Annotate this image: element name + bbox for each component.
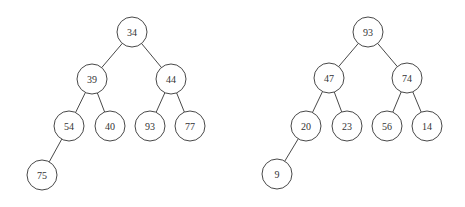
right-tree-edge (413, 92, 421, 112)
node-label: 93 (363, 27, 373, 38)
left-tree-node: 40 (95, 111, 125, 141)
left-tree-node: 93 (135, 111, 165, 141)
right-tree-edge (378, 43, 398, 66)
node-label: 44 (166, 74, 176, 85)
tree-nodes: 3439445440937775934774202356149 (27, 17, 442, 190)
right-tree-node: 93 (353, 17, 383, 47)
left-tree-node: 77 (175, 111, 205, 141)
node-label: 74 (402, 73, 412, 84)
node-label: 77 (185, 121, 195, 132)
right-tree-node: 74 (392, 63, 422, 93)
right-tree-node: 9 (262, 159, 292, 189)
node-label: 39 (87, 74, 97, 85)
node-label: 20 (301, 121, 311, 132)
right-tree-edge (334, 92, 341, 112)
left-tree-edge (156, 93, 165, 113)
left-tree-edge (142, 44, 162, 68)
right-tree-node: 20 (291, 111, 321, 141)
node-label: 75 (37, 170, 47, 181)
left-tree-edge (177, 93, 185, 112)
node-label: 93 (145, 121, 155, 132)
node-label: 56 (382, 121, 392, 132)
left-tree-edge (102, 43, 123, 67)
node-label: 54 (64, 121, 74, 132)
left-tree-edge (49, 139, 62, 162)
left-tree-edge (76, 92, 86, 112)
node-label: 40 (105, 121, 115, 132)
node-label: 47 (324, 73, 334, 84)
node-label: 14 (422, 121, 432, 132)
left-tree-node: 39 (77, 64, 107, 94)
right-tree-node: 56 (372, 111, 402, 141)
right-tree-edge (339, 43, 359, 66)
right-tree-node: 47 (314, 63, 344, 93)
left-tree-node: 44 (156, 64, 186, 94)
right-tree-node: 23 (332, 111, 362, 141)
right-tree-edge (393, 92, 401, 112)
tree-edges (49, 43, 421, 161)
node-label: 23 (342, 121, 352, 132)
node-label: 9 (275, 169, 280, 180)
left-tree-edge (97, 93, 104, 112)
left-tree-node: 75 (27, 160, 57, 190)
right-tree-node: 14 (412, 111, 442, 141)
right-tree-edge (285, 139, 298, 161)
left-tree-node: 34 (117, 17, 147, 47)
right-tree-edge (312, 92, 322, 113)
tree-diagram-canvas: 3439445440937775934774202356149 (0, 0, 465, 207)
left-tree-node: 54 (54, 111, 84, 141)
node-label: 34 (127, 27, 137, 38)
